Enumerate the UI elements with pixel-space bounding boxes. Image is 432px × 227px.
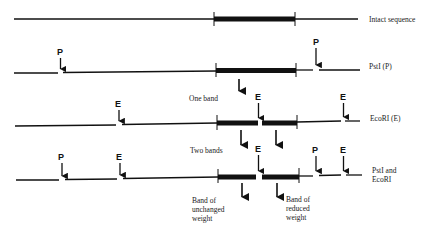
ecori-site-label: E <box>115 99 121 109</box>
band-reduced-line2: reduced <box>286 204 310 213</box>
band-unchanged-line2: unchanged <box>192 205 225 214</box>
dna-line <box>63 71 216 73</box>
ecori-site-label: E <box>255 92 261 102</box>
probe-region-right <box>262 121 297 126</box>
dna-line <box>122 123 217 125</box>
psti-site-label: P <box>58 152 64 162</box>
psti-site-label: P <box>57 47 63 57</box>
row-psti: P P PstI (P) <box>14 37 392 77</box>
psti-site-label: P <box>313 37 319 47</box>
dna-line <box>319 175 341 176</box>
ecori-site-label: E <box>116 152 122 162</box>
psti-site-label: P <box>312 145 318 155</box>
one-band-label: One band <box>189 94 218 103</box>
dna-line <box>65 179 117 180</box>
band-reduced-line1: Band of <box>286 195 310 204</box>
row-label: Intact sequence <box>369 15 416 24</box>
probe-region <box>216 68 296 73</box>
ecori-site-label: E <box>340 145 346 155</box>
probe-region-left <box>218 175 256 180</box>
dna-line <box>123 177 218 179</box>
row-label: EcoRI (E) <box>370 114 401 123</box>
band-unchanged-line1: Band of <box>192 196 216 205</box>
probe-region-right <box>262 175 299 180</box>
band-unchanged-line3: weight <box>192 214 213 223</box>
probe-region-left <box>217 121 258 126</box>
dna-line <box>15 125 116 126</box>
dna-line <box>297 121 341 122</box>
ecori-site-label: E <box>340 92 346 102</box>
row-label: PstI (P) <box>369 62 392 71</box>
row-label-line2: EcoRI <box>372 175 392 184</box>
ecori-site-label: E <box>255 144 261 154</box>
band-reduced-line3: weight <box>286 213 307 222</box>
restriction-digest-diagram: Intact sequence P P PstI (P) One band E … <box>0 0 432 227</box>
probe-region <box>214 17 295 22</box>
row-intact-sequence: Intact sequence <box>14 12 416 26</box>
two-bands-label: Two bands <box>190 146 223 155</box>
row-label-line1: PstI and <box>372 166 397 175</box>
